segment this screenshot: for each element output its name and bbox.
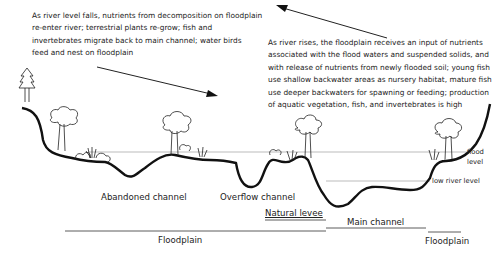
- note-line: use deeper backwaters for spawning or fe…: [268, 87, 492, 99]
- rising-arrow: [276, 5, 387, 38]
- flood-level-label: flood level: [467, 147, 484, 167]
- note-line: As river level falls, nutrients from dec…: [32, 10, 262, 22]
- note-line: re-enter river; terrestrial plants re-gr…: [32, 22, 262, 34]
- flood-level-label-line: level: [467, 157, 484, 167]
- note-line: feed and nest on floodplain: [32, 47, 262, 59]
- abandoned-channel-label: Abandoned channel: [101, 192, 187, 202]
- note-line: use shallow backwater areas as nursery h…: [268, 74, 492, 86]
- pine-tree-icon: [19, 68, 35, 102]
- main-channel-label: Main channel: [347, 217, 404, 227]
- tree-icon: [270, 115, 322, 160]
- tree-icon: [429, 119, 462, 161]
- low-river-level-label: low river level: [432, 176, 480, 186]
- note-line: of aquatic vegetation, fish, and inverte…: [268, 99, 492, 111]
- falling-river-note: As river level falls, nutrients from dec…: [32, 10, 262, 60]
- flood-level-label-line: flood: [467, 147, 484, 157]
- note-line: invertebrates migrate back to main chann…: [32, 35, 262, 47]
- note-line: associated with the flood waters and sus…: [268, 49, 492, 61]
- tree-icon: [50, 107, 77, 151]
- note-line: with release of nutrients from newly flo…: [268, 62, 492, 74]
- floodplain-left-label: Floodplain: [158, 235, 202, 245]
- tree-icon: [163, 112, 207, 158]
- natural-levee-label: Natural levee: [265, 208, 323, 218]
- rising-river-note: As river rises, the floodplain receives …: [268, 37, 492, 111]
- falling-arrow: [97, 67, 218, 97]
- floodplain-right-label: Floodplain: [425, 236, 469, 246]
- overflow-channel-label: Overflow channel: [220, 192, 295, 202]
- note-line: As river rises, the floodplain receives …: [268, 37, 492, 49]
